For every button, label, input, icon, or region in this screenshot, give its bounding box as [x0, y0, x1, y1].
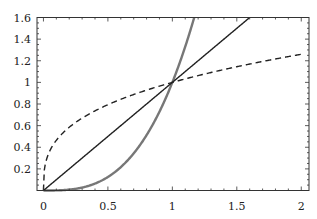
curve-cube-root	[43, 54, 301, 190]
y-tick-label: 0.4	[14, 141, 32, 154]
y-tick-label: 1.6	[14, 12, 32, 25]
y-tick-label: 0.6	[14, 120, 32, 133]
y-tick-label: 1	[24, 76, 31, 89]
y-tick-label: 1.2	[14, 55, 32, 68]
curve-linear	[43, 18, 249, 191]
plot-curves	[43, 18, 301, 191]
y-tick-label: 0.2	[14, 163, 32, 176]
curve-cubic	[43, 18, 194, 191]
y-tick-label: 0.8	[14, 98, 32, 111]
x-tick-label: 1.5	[228, 200, 246, 213]
x-tick-label: 2	[298, 200, 305, 213]
plot-frame	[37, 18, 309, 191]
function-plot: 00.511.52 0.20.40.60.811.21.41.6	[0, 0, 317, 219]
x-tick-label: 0	[40, 200, 47, 213]
x-axis-tick-labels: 00.511.52	[40, 200, 305, 213]
x-tick-label: 1	[169, 200, 176, 213]
frame-ticks	[37, 18, 309, 191]
y-tick-label: 1.4	[14, 33, 32, 46]
y-axis-tick-labels: 0.20.40.60.811.21.41.6	[14, 12, 32, 176]
x-tick-label: 0.5	[99, 200, 117, 213]
